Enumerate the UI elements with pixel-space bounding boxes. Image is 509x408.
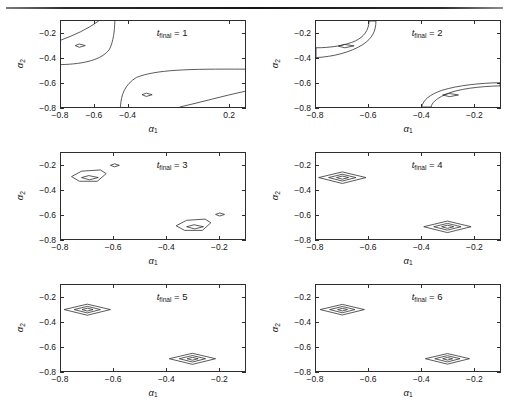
contour-level-2 <box>330 307 355 313</box>
contour-lines-6 <box>316 285 500 371</box>
y-tick-6-4 <box>315 372 319 373</box>
y-axis-label-6: α2 <box>269 316 280 340</box>
contour-plot-figure: −0.8−0.6−0.40.2−0.2−0.4−0.6−0.8α1α2tfina… <box>0 0 509 408</box>
x-tick-top-6-1 <box>315 284 316 288</box>
contour-level-6 <box>443 357 453 360</box>
y-tick-6-1 <box>315 297 319 298</box>
x-tick-label-6-3: −0.4 <box>413 375 430 384</box>
contour-panel-6: −0.8−0.6−0.4−0.2−0.2−0.4−0.6−0.8α1α2tfin… <box>0 0 509 408</box>
x-tick-top-6-3 <box>421 284 422 288</box>
x-tick-6-4 <box>474 368 475 372</box>
contour-level-5 <box>435 356 460 362</box>
y-tick-right-6-4 <box>497 372 501 373</box>
y-tick-right-6-2 <box>497 322 501 323</box>
y-tick-6-3 <box>315 347 319 348</box>
y-tick-label-6-4: −0.8 <box>281 368 311 377</box>
x-tick-6-2 <box>368 368 369 372</box>
y-tick-6-2 <box>315 322 319 323</box>
y-tick-label-6-1: −0.2 <box>281 292 311 301</box>
y-tick-label-6-2: −0.4 <box>281 317 311 326</box>
panel-label-tfinal-6: tfinal = 6 <box>412 291 443 303</box>
x-tick-top-6-2 <box>368 284 369 288</box>
contour-level-4 <box>425 354 469 365</box>
x-tick-label-6-4: −0.2 <box>466 375 483 384</box>
x-tick-6-3 <box>421 368 422 372</box>
plot-area-6 <box>315 284 501 372</box>
x-axis-label-6: α1 <box>403 387 412 398</box>
x-tick-label-6-2: −0.6 <box>360 375 377 384</box>
contour-level-3 <box>338 308 348 311</box>
y-tick-right-6-3 <box>497 347 501 348</box>
x-tick-top-6-4 <box>474 284 475 288</box>
y-tick-label-6-3: −0.6 <box>281 342 311 351</box>
contour-level-1 <box>320 304 364 315</box>
y-tick-right-6-1 <box>497 297 501 298</box>
